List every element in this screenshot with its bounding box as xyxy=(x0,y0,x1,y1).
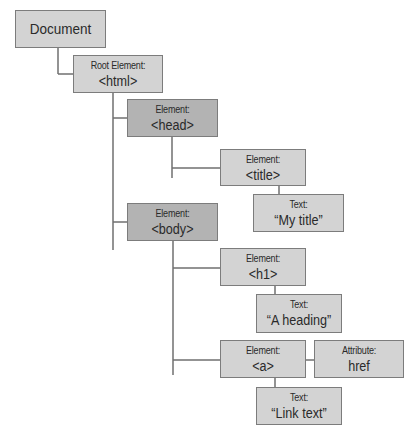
node-html: Root Element: <html> xyxy=(73,55,163,93)
node-a-attribute: Attribute: href xyxy=(314,340,404,378)
node-body: Element: <body> xyxy=(127,203,218,241)
node-value: Document xyxy=(20,11,100,47)
node-value: <a> xyxy=(225,358,301,374)
node-label: Element: xyxy=(132,208,212,219)
node-document: Document xyxy=(15,10,106,48)
node-label: Element: xyxy=(132,104,212,115)
node-value: “A heading” xyxy=(261,312,337,328)
node-label: Element: xyxy=(225,253,301,264)
node-label: Root Element: xyxy=(78,60,157,71)
node-a: Element: <a> xyxy=(220,340,306,378)
node-label: Attribute: xyxy=(319,345,398,356)
node-value: “Link text” xyxy=(261,405,337,421)
node-title: Element: <title> xyxy=(220,149,306,186)
node-a-text: Text: “Link text” xyxy=(256,387,342,425)
node-label: Text: xyxy=(261,392,337,403)
node-value: href xyxy=(319,358,398,374)
node-label: Element: xyxy=(225,154,301,165)
node-title-text: Text: “My title” xyxy=(253,194,344,232)
node-value: <h1> xyxy=(225,266,301,282)
node-h1: Element: <h1> xyxy=(220,248,306,286)
node-head: Element: <head> xyxy=(127,99,218,137)
node-value: “My title” xyxy=(258,212,338,228)
node-h1-text: Text: “A heading” xyxy=(256,294,342,333)
node-label: Text: xyxy=(258,199,338,210)
node-label: Text: xyxy=(261,299,337,310)
node-value: <title> xyxy=(225,167,301,183)
node-value: <head> xyxy=(132,117,212,133)
node-label: Element: xyxy=(225,345,301,356)
node-value: <html> xyxy=(78,73,157,89)
node-value: <body> xyxy=(132,221,212,237)
